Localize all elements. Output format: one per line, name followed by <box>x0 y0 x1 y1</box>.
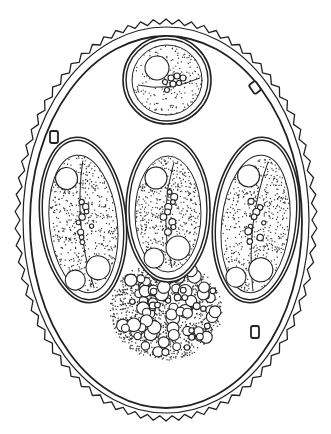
polar-granule <box>251 326 259 338</box>
sporocyst-right <box>205 133 308 307</box>
polar-granule <box>249 81 262 95</box>
sporocyst-top-round <box>123 36 211 124</box>
sporocyst-left <box>32 133 135 307</box>
sporocyst-middle <box>126 138 210 282</box>
oocyst-illustration <box>0 0 331 434</box>
oocyst-figure <box>0 0 331 434</box>
sporocysts <box>32 36 308 307</box>
polar-granule <box>50 131 58 143</box>
